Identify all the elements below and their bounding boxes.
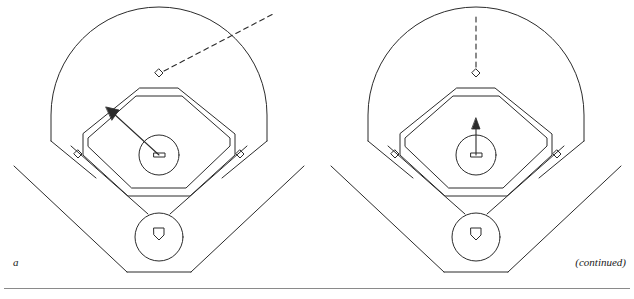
home-plate-b <box>471 228 481 240</box>
infield-dirt-a <box>83 88 235 196</box>
baseball-field-b <box>317 0 634 285</box>
foul-line-left-a <box>71 146 148 214</box>
fielder-movement-arrow-line-a <box>113 113 159 155</box>
home-plate-circle-b <box>452 213 500 261</box>
panel-label-a: a <box>13 256 19 268</box>
diagram-panel-b: b <box>317 0 634 285</box>
foul-line-right-b <box>487 146 564 214</box>
home-plate-circle-a <box>135 213 183 261</box>
bottom-divider-rule <box>4 288 630 289</box>
ball-trajectory-line-a <box>164 13 275 71</box>
foul-line-right-a <box>170 146 247 214</box>
continued-note: (continued) <box>575 256 626 268</box>
home-plate-a <box>154 228 164 240</box>
stands-left-a <box>14 166 127 272</box>
stands-right-a <box>191 166 304 272</box>
second-base-a <box>155 69 163 77</box>
figure-page: a <box>0 0 634 299</box>
foul-line-left-b <box>388 146 465 214</box>
fielder-movement-arrowhead-b <box>472 118 480 129</box>
stands-left-b <box>331 166 444 272</box>
second-base-b <box>472 69 480 77</box>
outfield-fence-a <box>51 7 267 141</box>
baseball-field-a <box>0 0 317 285</box>
diagram-panel-a: a <box>0 0 317 285</box>
